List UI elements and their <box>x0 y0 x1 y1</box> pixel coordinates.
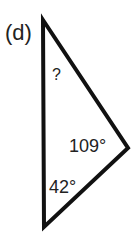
figure-label: (d) <box>5 20 32 45</box>
angle-label-right: 109° <box>69 136 106 156</box>
unknown-angle-label: ? <box>52 66 61 83</box>
triangle-diagram: (d) ? 109° 42° <box>0 0 139 237</box>
angle-label-bottom: 42° <box>49 177 76 197</box>
